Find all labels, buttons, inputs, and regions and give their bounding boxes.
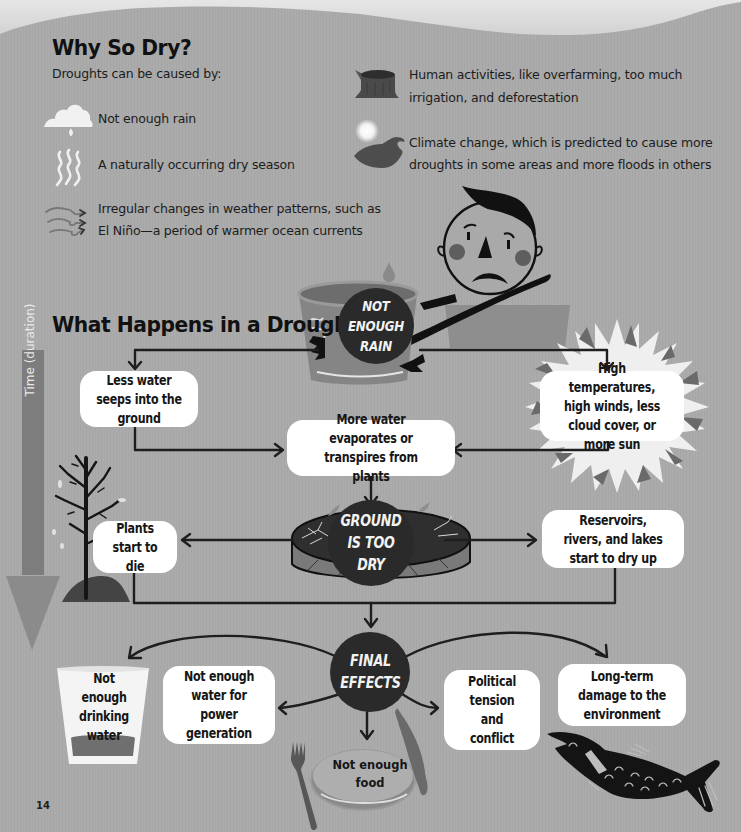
node-not-enough-food: Not enough food: [320, 752, 420, 796]
node-less-water-seeps: Less water seeps into the ground: [80, 371, 198, 427]
node-high-temperatures-label: High temperatures, high winds, less clou…: [557, 359, 666, 454]
node-reservoirs-dry-up-label: Reservoirs, rivers, and lakes start to d…: [559, 511, 666, 568]
node-not-enough-drinking-water-label: Not enough drinking water: [75, 669, 133, 745]
node-final-effects-label: FINAL EFFECTS: [340, 650, 400, 694]
node-environment-damage: Long-term damage to the environment: [558, 664, 686, 726]
node-high-temperatures: High temperatures, high winds, less clou…: [540, 371, 684, 441]
node-more-water-evaporates-label: More water evaporates or transpires from…: [306, 410, 436, 486]
node-not-enough-power: Not enough water for power generation: [163, 666, 275, 744]
node-not-enough-power-label: Not enough water for power generation: [179, 667, 260, 743]
node-not-enough-rain-label: NOT ENOUGH RAIN: [348, 296, 404, 356]
node-political-tension-label: Political tension and conflict: [459, 672, 526, 748]
drought-infographic-page: Why So Dry? Droughts can be caused by: N…: [0, 0, 741, 832]
node-not-enough-food-label: Not enough food: [326, 756, 414, 792]
node-reservoirs-dry-up: Reservoirs, rivers, and lakes start to d…: [542, 510, 684, 568]
node-plants-start-to-die-label: Plants start to die: [107, 519, 163, 576]
page-number: 14: [36, 800, 50, 811]
node-less-water-seeps-label: Less water seeps into the ground: [96, 371, 182, 428]
node-ground-too-dry-label: GROUND IS TOO DRY: [340, 510, 401, 576]
node-plants-start-to-die: Plants start to die: [93, 521, 177, 573]
node-more-water-evaporates: More water evaporates or transpires from…: [287, 420, 455, 476]
node-final-effects: FINAL EFFECTS: [330, 632, 410, 712]
node-not-enough-rain: NOT ENOUGH RAIN: [338, 288, 414, 364]
node-ground-too-dry: GROUND IS TOO DRY: [328, 500, 414, 586]
node-environment-damage-label: Long-term damage to the environment: [574, 667, 669, 724]
node-political-tension: Political tension and conflict: [444, 670, 540, 750]
node-not-enough-drinking-water: Not enough drinking water: [61, 672, 147, 742]
